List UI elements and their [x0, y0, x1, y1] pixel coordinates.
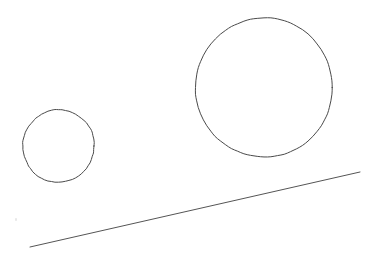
canvas-background	[0, 0, 375, 262]
sketch-drawing-surface	[0, 0, 375, 262]
scan-speck	[15, 218, 17, 221]
sketch-canvas	[0, 0, 375, 262]
